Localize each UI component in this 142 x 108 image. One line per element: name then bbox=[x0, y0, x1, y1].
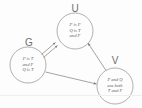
node-text-g: P is T and F Q is T bbox=[10, 56, 46, 73]
edge-g-to-u-upper[interactable] bbox=[42, 43, 56, 55]
bottom-divider bbox=[0, 95, 142, 96]
edge-v-to-u[interactable] bbox=[88, 43, 106, 71]
node-label-v: V bbox=[106, 56, 124, 66]
node-label-u: U bbox=[66, 4, 84, 14]
edge-g-to-v[interactable] bbox=[46, 72, 97, 84]
node-text-line: T and F bbox=[97, 88, 133, 94]
node-text-line: Q is T bbox=[10, 67, 46, 73]
node-text-v: P and Q are both T and F bbox=[97, 77, 133, 94]
node-text-u: P is F Q is T and F bbox=[57, 22, 93, 39]
node-text-line: and F bbox=[57, 33, 93, 39]
node-label-g: G bbox=[20, 38, 38, 48]
logic-state-diagram: G U V P is T and F Q is T P is F Q is T … bbox=[0, 0, 142, 108]
